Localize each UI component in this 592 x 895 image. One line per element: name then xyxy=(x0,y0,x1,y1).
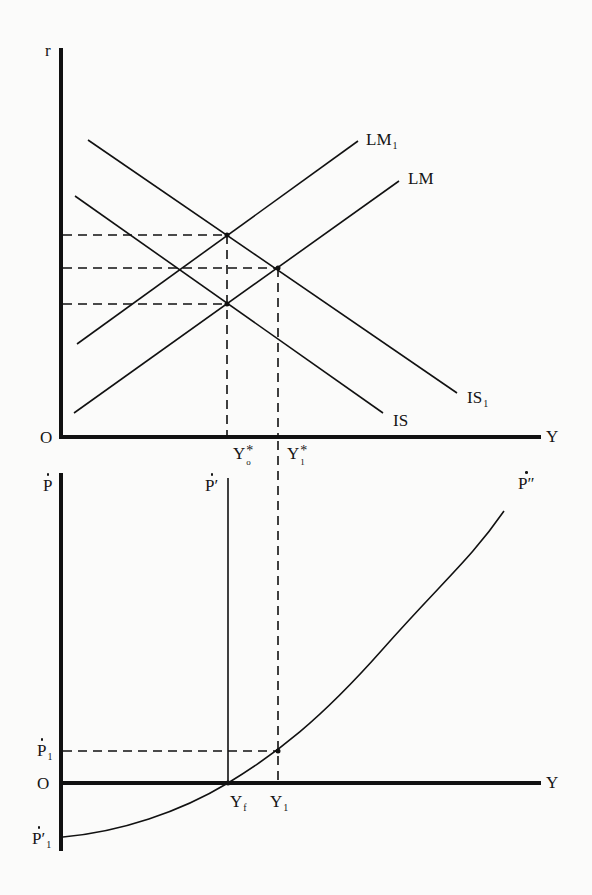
y1s-text: Y xyxy=(287,444,299,463)
y-top-text: Y xyxy=(546,427,558,446)
is-text: IS xyxy=(393,411,408,430)
lm1-text: LM xyxy=(366,130,392,149)
yf-sub: f xyxy=(243,802,246,813)
bottom-y-axis-label: Y xyxy=(546,774,558,791)
pprime1-label: P′1 xyxy=(32,830,51,847)
lm-curve xyxy=(74,181,399,413)
y0-star-sub: *o xyxy=(246,445,253,466)
y0-star-label: Y*o xyxy=(233,445,253,466)
bottom-origin-label: O xyxy=(37,775,49,792)
pprime-text: P′ xyxy=(205,477,218,494)
is-label: IS xyxy=(393,412,408,429)
lm-label: LM xyxy=(408,170,434,187)
bottom-panel xyxy=(59,441,541,851)
y1s-sub: 1 xyxy=(300,458,307,466)
yf-text: Y xyxy=(230,792,242,811)
p1-text: P xyxy=(37,742,46,759)
o-bottom-text: O xyxy=(37,774,49,793)
is1-text: IS xyxy=(467,388,482,407)
pdoubleprime-curve xyxy=(63,511,504,837)
point-yf xyxy=(226,781,231,786)
y1-text: Y xyxy=(270,792,282,811)
y1s-star-sub: *1 xyxy=(300,445,307,466)
intersection-lm-is1 xyxy=(276,266,281,271)
r-axis-label: r xyxy=(45,42,51,59)
y1-sub: 1 xyxy=(283,802,288,813)
intersection-lm1-is1 xyxy=(225,233,230,238)
lm-text: LM xyxy=(408,169,434,188)
o-top-text: O xyxy=(40,428,52,447)
r-text: r xyxy=(45,41,51,60)
y0-sup: * xyxy=(246,445,253,458)
top-origin-label: O xyxy=(40,429,52,446)
p1-sub: 1 xyxy=(47,751,52,762)
lm1-sub: 1 xyxy=(393,140,398,151)
y-bottom-text: Y xyxy=(546,773,558,792)
lm1-label: LM1 xyxy=(366,131,398,148)
is1-curve xyxy=(88,140,457,393)
pprime1-text: P′ xyxy=(32,830,45,847)
y1s-sup: * xyxy=(300,445,307,458)
y0-text: Y xyxy=(233,444,245,463)
pdoubleprime-text: P″ xyxy=(518,475,535,492)
lm1-curve xyxy=(77,141,358,344)
y1-label: Y1 xyxy=(270,793,288,810)
pprime1-sub: 1 xyxy=(46,839,51,850)
is1-sub: 1 xyxy=(483,398,488,409)
is1-label: IS1 xyxy=(467,389,488,406)
top-panel xyxy=(59,48,541,439)
y0-sub: o xyxy=(246,458,253,466)
p1-label: P1 xyxy=(37,742,52,759)
pprime-label: P′ xyxy=(205,477,218,494)
pdot-text: P xyxy=(43,477,52,494)
pdot-axis-label: P xyxy=(43,477,52,494)
pdoubleprime-label: P″ xyxy=(518,475,535,492)
top-y-axis-label: Y xyxy=(546,428,558,445)
y1-star-label: Y*1 xyxy=(287,445,307,466)
point-y1-p1 xyxy=(276,749,281,754)
yf-label: Yf xyxy=(230,793,247,810)
intersection-lm-is xyxy=(225,302,230,307)
